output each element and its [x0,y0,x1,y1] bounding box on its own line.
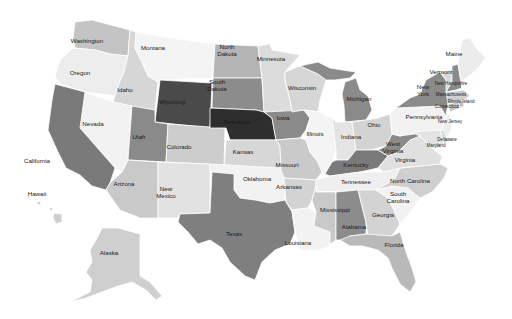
state-label-rhode-island: Rhode Island [447,99,475,104]
state-label-oklahoma: Oklahoma [243,175,272,182]
state-label-nebraska: Nebraska [224,118,251,125]
state-label-wyoming: Wyoming [159,98,185,105]
state-label-louisiana: Louisiana [285,239,312,246]
state-label-hawaii: Hawaii [28,190,47,197]
state-label-michigan: Michigan [347,95,372,102]
state-label-vermont: Vermont [429,68,452,75]
state-florida[interactable] [340,232,416,292]
state-label-massachusetts: Massachusetts [436,92,467,97]
state-label-virginia: Virginia [395,156,416,163]
state-label-north-dakota: NorthDakota [217,43,237,57]
state-label-iowa: Iowa [276,114,290,121]
state-label-arkansas: Arkansas [276,183,302,190]
state-label-maine: Maine [446,50,463,57]
state-label-delaware: Delaware [437,137,457,142]
state-label-texas: Texas [226,230,242,237]
state-label-new-hampshire: New Hampshire [435,81,468,86]
state-label-kansas: Kansas [233,148,254,155]
state-label-minnesota: Minnesota [257,55,286,62]
state-label-connecticut: Connecticut [435,104,460,109]
state-label-mississippi: Mississippi [320,206,350,213]
state-label-california: California [24,157,51,164]
state-label-north-carolina: North Carolina [390,177,430,184]
state-label-florida: Florida [385,241,404,248]
state-label-maryland: Maryland [427,143,446,148]
state-label-illinois: Illinois [306,130,323,137]
state-label-tennessee: Tennessee [341,178,371,185]
state-label-ohio: Ohio [367,121,381,128]
state-label-alabama: Alabama [342,223,367,230]
state-label-utah: Utah [132,133,146,140]
states-layer [27,20,486,302]
state-label-south-dakota: SouthDakota [207,78,227,92]
state-label-indiana: Indiana [341,133,362,140]
state-label-nevada: Nevada [82,120,104,127]
state-alaska[interactable] [70,228,162,302]
state-label-idaho: Idaho [117,86,133,93]
state-montana[interactable] [135,32,215,82]
state-label-missouri: Missouri [275,161,298,168]
state-label-alaska: Alaska [100,249,119,256]
state-label-new-jersey: New Jersey [438,119,463,124]
state-label-washington: Washington [71,37,104,44]
us-choropleth-map: WashingtonOregonCaliforniaIdahoNevadaMon… [0,0,512,319]
state-label-kentucky: Kentucky [343,161,369,168]
state-label-montana: Montana [141,44,166,51]
state-label-arizona: Arizona [114,180,136,187]
state-label-georgia: Georgia [372,211,395,218]
state-hawaii[interactable] [27,196,62,224]
state-label-new-york: NewYork [417,83,430,97]
state-label-oregon: Oregon [70,69,91,76]
state-label-wisconsin: Wisconsin [288,84,317,91]
state-label-colorado: Colorado [166,143,192,150]
